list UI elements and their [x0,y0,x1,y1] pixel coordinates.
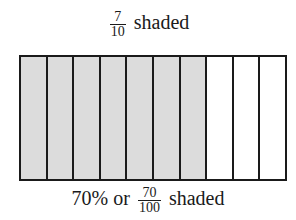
denominator: 10 [110,24,126,39]
grid-cell-shaded [181,57,208,179]
percent-text: 70% [72,187,109,209]
shaded-text: shaded [169,187,225,209]
fraction-seventy-hundredths: 70 100 [138,186,161,215]
bottom-label: 70% or 70 100 shaded [0,186,296,215]
grid-cell-unshaded [260,57,285,179]
or-text: or [113,187,130,209]
shaded-text: shaded [134,11,190,33]
fraction-seven-tenths: 7 10 [110,10,126,39]
grid-cell-unshaded [234,57,261,179]
grid-cell-unshaded [207,57,234,179]
top-label: 7 10 shaded [0,10,296,39]
grid-cell-shaded [74,57,101,179]
numerator: 70 [138,186,161,200]
fraction-grid [19,55,287,181]
grid-cell-shaded [48,57,75,179]
denominator: 100 [138,200,161,215]
grid-cell-shaded [127,57,154,179]
grid-cell-shaded [101,57,128,179]
grid-cell-shaded [21,57,48,179]
grid-cell-shaded [154,57,181,179]
numerator: 7 [110,10,126,24]
